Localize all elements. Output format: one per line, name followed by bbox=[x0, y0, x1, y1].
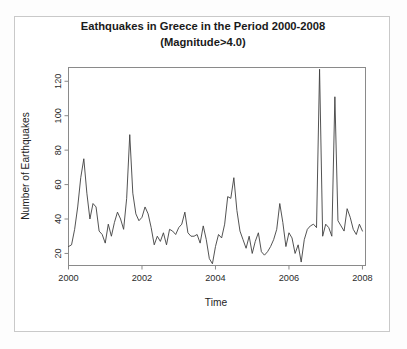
x-tick-label: 2006 bbox=[279, 273, 299, 283]
y-tick-label: 120 bbox=[53, 74, 63, 89]
x-tick-label: 2000 bbox=[58, 273, 78, 283]
data-series-group bbox=[69, 69, 363, 264]
y-axis-label: Number of Earthquakes bbox=[20, 112, 31, 220]
chart-figure: Eathquakes in Greece in the Period 2000-… bbox=[0, 0, 407, 349]
y-tick-label: 100 bbox=[53, 108, 63, 123]
y-tick-label: 40 bbox=[53, 214, 63, 224]
chart-title: Eathquakes in Greece in the Period 2000-… bbox=[81, 20, 325, 32]
earthquake-time-series-chart: Eathquakes in Greece in the Period 2000-… bbox=[0, 0, 407, 349]
x-axis-ticks: 20002002200420062008 bbox=[58, 266, 372, 283]
x-tick-label: 2004 bbox=[205, 273, 225, 283]
y-tick-label: 60 bbox=[53, 179, 63, 189]
scanned-page: Eathquakes in Greece in the Period 2000-… bbox=[0, 0, 407, 349]
x-tick-label: 2002 bbox=[132, 273, 152, 283]
chart-subtitle: (Magnitude>4.0) bbox=[160, 36, 246, 48]
y-tick-label: 80 bbox=[53, 145, 63, 155]
x-tick-label: 2008 bbox=[352, 273, 372, 283]
x-axis-label: Time bbox=[205, 297, 228, 308]
y-tick-label: 20 bbox=[53, 248, 63, 258]
earthquake-count-line bbox=[69, 69, 363, 264]
y-axis-ticks: 20406080100120 bbox=[53, 74, 69, 259]
